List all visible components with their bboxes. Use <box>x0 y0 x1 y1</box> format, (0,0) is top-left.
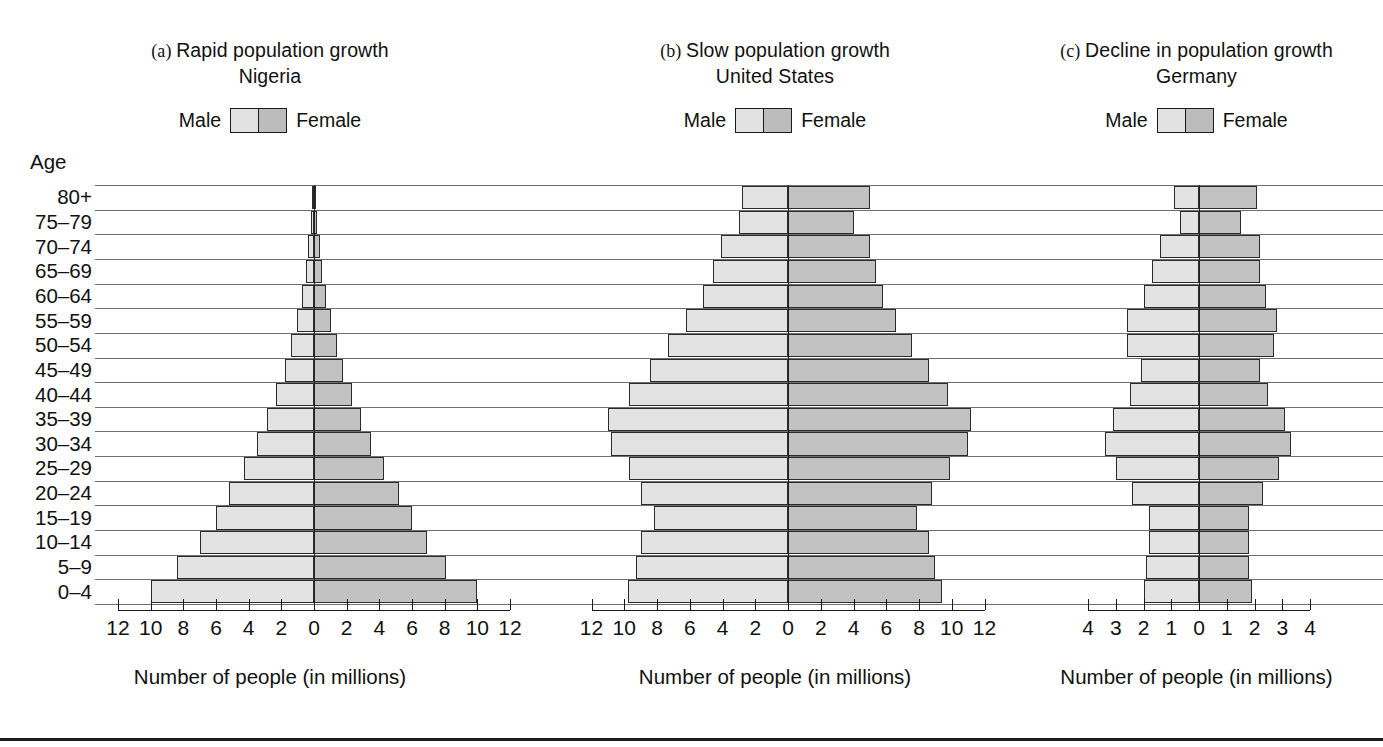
bar-female <box>314 408 361 431</box>
x-axis-tick <box>788 599 789 610</box>
bar-female <box>788 235 870 258</box>
gridline <box>95 185 540 186</box>
bar-female <box>1199 408 1285 431</box>
x-axis-tick-label: 2 <box>275 616 287 640</box>
x-axis-tick <box>723 599 724 610</box>
gridline <box>1010 604 1383 605</box>
bar-female <box>314 285 326 308</box>
age-group-label: 30–34 <box>0 432 92 456</box>
x-axis-tick-label: 4 <box>1304 616 1316 640</box>
bar-female <box>788 359 929 382</box>
x-axis-tick <box>249 599 250 610</box>
bar-female <box>1199 260 1260 283</box>
bar-female <box>788 432 968 455</box>
x-axis-caption: Number of people (in millions) <box>540 665 1010 689</box>
bar-male <box>1180 211 1199 234</box>
x-axis-tick <box>1171 599 1172 610</box>
x-axis-tick <box>952 599 953 610</box>
x-axis-tick <box>1144 599 1145 610</box>
bar-male <box>650 359 788 382</box>
bar-female <box>788 482 932 505</box>
x-axis-tick-label: 2 <box>341 616 353 640</box>
bar-male <box>302 285 314 308</box>
bar-female <box>788 334 912 357</box>
bar-male <box>1144 285 1200 308</box>
bar-female <box>1199 334 1274 357</box>
bar-female <box>314 309 331 332</box>
x-axis-tick-label: 8 <box>913 616 925 640</box>
x-axis-tick <box>1227 599 1228 610</box>
x-axis-tick-label: 4 <box>848 616 860 640</box>
age-group-label: 0–4 <box>0 580 92 604</box>
x-axis-tick-label: 10 <box>940 616 963 640</box>
age-axis: Age80+75–7970–7465–6960–6455–5950–5445–4… <box>0 0 92 700</box>
bar-male <box>200 531 314 554</box>
x-axis-tick <box>919 599 920 610</box>
x-axis-tick <box>412 599 413 610</box>
bar-female <box>1199 383 1268 406</box>
bar-female <box>788 506 917 529</box>
x-axis-tick-label: 6 <box>210 616 222 640</box>
age-group-label: 70–74 <box>0 235 92 259</box>
x-axis-tick <box>151 599 152 610</box>
bar-male <box>629 383 788 406</box>
age-group-label: 20–24 <box>0 481 92 505</box>
x-axis-tick-label: 0 <box>308 616 320 640</box>
bar-male <box>285 359 314 382</box>
panel-united-states: (b) Slow population growthUnited StatesM… <box>540 0 1010 700</box>
x-axis-line <box>118 610 510 611</box>
bar-female <box>1199 556 1249 579</box>
x-axis-tick-label: 12 <box>973 616 996 640</box>
x-axis-tick-label: 1 <box>1165 616 1177 640</box>
bar-female <box>1199 186 1257 209</box>
x-axis-tick-label: 1 <box>1221 616 1233 640</box>
x-axis-tick-label: 3 <box>1110 616 1122 640</box>
bar-male <box>267 408 314 431</box>
x-axis-line <box>592 610 985 611</box>
x-axis-tick <box>347 599 348 610</box>
x-axis-tick-label: 6 <box>880 616 892 640</box>
bar-male <box>608 408 788 431</box>
bar-female <box>314 457 384 480</box>
bar-male <box>1127 334 1199 357</box>
bar-male <box>1149 506 1199 529</box>
x-axis-tick-label: 8 <box>177 616 189 640</box>
x-axis-tick <box>985 599 986 610</box>
x-axis-tick-label: 3 <box>1276 616 1288 640</box>
bar-male <box>216 506 314 529</box>
bar-female <box>788 556 935 579</box>
bar-female <box>1199 457 1279 480</box>
population-pyramid-figure: (a) Rapid population growthNigeriaMaleFe… <box>0 0 1383 747</box>
bar-female <box>1199 482 1263 505</box>
bar-female <box>788 260 876 283</box>
x-axis-tick-label: 6 <box>406 616 418 640</box>
bar-female <box>314 260 322 283</box>
bar-female <box>788 383 948 406</box>
bar-male <box>629 457 788 480</box>
x-axis-caption: Number of people (in millions) <box>1010 665 1383 689</box>
bar-female <box>314 580 477 603</box>
bar-male <box>1132 482 1199 505</box>
bar-female <box>1199 432 1291 455</box>
center-axis-line <box>788 185 789 610</box>
bar-male <box>739 211 788 234</box>
bar-female <box>788 309 896 332</box>
bar-male <box>742 186 788 209</box>
bar-female <box>1199 506 1249 529</box>
x-axis-tick <box>216 599 217 610</box>
age-group-label: 55–59 <box>0 309 92 333</box>
bar-male <box>1113 408 1199 431</box>
bar-male <box>713 260 788 283</box>
gridline <box>95 210 540 211</box>
bar-male <box>177 556 314 579</box>
x-axis-tick-label: 2 <box>1249 616 1261 640</box>
bar-female <box>1199 309 1277 332</box>
bar-male <box>151 580 314 603</box>
x-axis-tick-label: 4 <box>1082 616 1094 640</box>
x-axis-tick-label: 8 <box>651 616 663 640</box>
x-axis-tick-label: 0 <box>1193 616 1205 640</box>
bar-female <box>788 186 870 209</box>
x-axis-tick <box>1310 599 1311 610</box>
age-axis-title: Age <box>30 150 66 174</box>
x-axis-tick <box>314 599 315 610</box>
